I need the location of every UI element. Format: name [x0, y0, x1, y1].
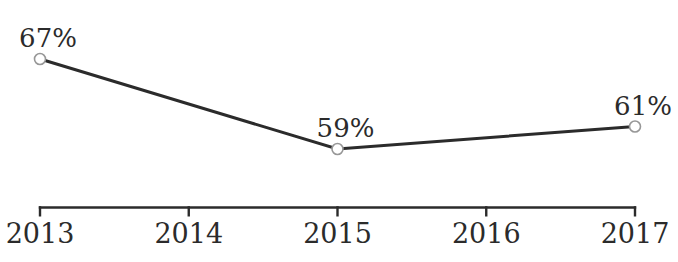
x-axis-tick-label: 2013	[6, 218, 75, 249]
line-chart-figure: 67%59%61%20132014201520162017	[0, 0, 678, 262]
data-point-marker	[630, 121, 641, 132]
data-point-label: 59%	[317, 113, 375, 143]
data-point-label: 67%	[19, 23, 77, 53]
x-axis-tick-label: 2014	[154, 218, 223, 249]
x-axis-tick-label: 2016	[452, 218, 521, 249]
data-point-marker	[332, 144, 343, 155]
x-axis-tick-label: 2015	[303, 218, 372, 249]
data-point-label: 61%	[614, 91, 672, 121]
data-point-marker	[35, 54, 46, 65]
x-axis-tick-label: 2017	[601, 218, 670, 249]
line-chart: 67%59%61%20132014201520162017	[0, 0, 678, 262]
